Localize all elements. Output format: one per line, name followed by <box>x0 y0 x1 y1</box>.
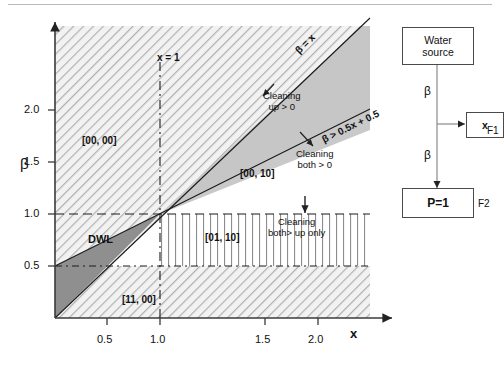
flowchart-firm2-box[interactable]: P=1 <box>402 188 474 218</box>
x-tick-label-2: 1.5 <box>255 333 270 345</box>
y-axis-label: β <box>20 155 29 172</box>
annotation-both-up-only-line2: both> up only <box>268 227 325 238</box>
firm2-box-label: P=1 <box>427 197 449 209</box>
y-tick-label-1: 1.0 <box>24 207 39 219</box>
x-tick-label-3: 2.0 <box>308 333 323 345</box>
y-tick-label-3: 2.0 <box>24 103 39 115</box>
x-ticks <box>107 318 318 325</box>
annotation-cleaning-up-line1: Cleaning <box>263 90 301 101</box>
region-01-10 <box>160 214 370 266</box>
water-source-line1: Water <box>424 34 452 46</box>
region-label-01-10: [01, 10] <box>205 232 239 243</box>
water-source-line2: source <box>422 46 454 58</box>
y-tick-label-0: 0.5 <box>24 259 39 271</box>
edge-label-lower-beta: β <box>424 148 431 162</box>
annotation-cleaning-both-up-only: Cleaning both> up only <box>268 216 325 238</box>
annotation-cleaning-up-line2: up > 0 <box>268 101 295 112</box>
annotation-both-up-only-line1: Cleaning <box>278 216 316 227</box>
x-tick-label-1: 1.0 <box>150 333 165 345</box>
y-ticks <box>48 110 55 266</box>
region-label-11-00: [11, 00] <box>122 294 156 305</box>
annotation-cleaning-both-line2: both > 0 <box>297 159 332 170</box>
annotation-cleaning-both: Cleaning both > 0 <box>296 148 334 170</box>
region-label-00-00: [00, 00] <box>82 135 116 146</box>
edge-label-upper-beta: β <box>424 84 431 98</box>
x-axis-label: x <box>350 326 357 341</box>
region-label-dwl: DWL <box>88 233 113 245</box>
vertical-line-label: x = 1 <box>157 52 180 63</box>
annotation-cleaning-up: Cleaning up > 0 <box>263 90 301 112</box>
region-label-00-10: [00, 10] <box>240 168 274 179</box>
x-tick-label-0: 0.5 <box>97 333 112 345</box>
flowchart-water-source-box[interactable]: Water source <box>402 27 474 65</box>
region-11-00-fill <box>55 266 370 318</box>
firm2-tag: F2 <box>478 198 490 209</box>
flowchart-connectors <box>437 63 465 188</box>
annotation-cleaning-both-line1: Cleaning <box>296 148 334 159</box>
firm1-tag: F1 <box>487 125 499 136</box>
